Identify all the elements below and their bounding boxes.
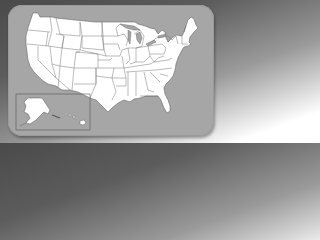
us-map xyxy=(8,5,214,136)
alaska xyxy=(24,98,50,124)
florida-keys-panhandle xyxy=(52,115,60,118)
hawaii xyxy=(65,113,86,125)
aleutian-islands xyxy=(20,123,26,126)
map-card xyxy=(8,5,214,136)
